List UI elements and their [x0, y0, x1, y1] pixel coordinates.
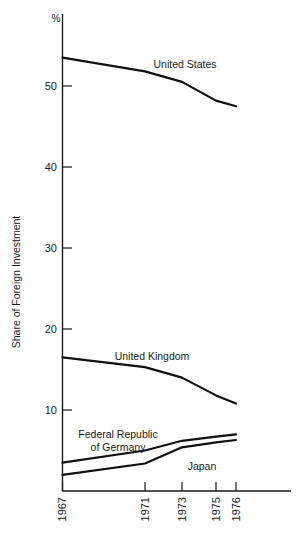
- series-label-germany-line1: Federal Republic: [78, 428, 157, 440]
- chart-container: Share of Foreign Investment % 50 40 30 2…: [0, 0, 301, 537]
- x-axis-tick-labels: 1967 1971 1973 1975 1976: [56, 497, 242, 521]
- y-tick-label-30: 30: [45, 242, 57, 254]
- series-label-germany-line2: of Germany: [91, 441, 147, 453]
- y-axis-ticks: [63, 86, 73, 410]
- y-tick-label-10: 10: [45, 404, 57, 416]
- series-label-united-kingdom: United Kingdom: [115, 350, 190, 362]
- series-label-japan: Japan: [188, 460, 217, 472]
- y-axis-title: Share of Foreign Investment: [10, 216, 22, 349]
- y-axis-tick-labels: 50 40 30 20 10: [45, 80, 57, 416]
- x-tick-label-1973: 1973: [176, 497, 188, 521]
- series-line-united-kingdom: [63, 357, 237, 403]
- y-axis-unit-label: %: [52, 13, 61, 24]
- series-label-united-states: United States: [153, 58, 216, 70]
- x-tick-label-1967: 1967: [56, 497, 68, 521]
- x-tick-label-1971: 1971: [139, 497, 151, 521]
- line-chart: Share of Foreign Investment % 50 40 30 2…: [0, 0, 301, 537]
- x-tick-label-1976: 1976: [230, 497, 242, 521]
- y-tick-label-20: 20: [45, 323, 57, 335]
- x-tick-label-1975: 1975: [210, 497, 222, 521]
- y-tick-label-50: 50: [45, 80, 57, 92]
- y-tick-label-40: 40: [45, 161, 57, 173]
- x-axis-ticks: [63, 482, 237, 491]
